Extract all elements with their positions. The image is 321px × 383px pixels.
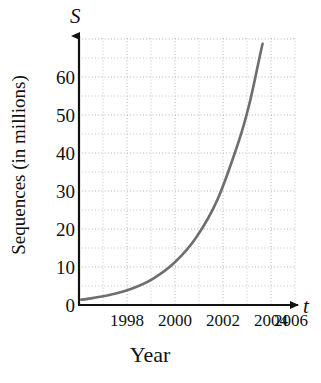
chart-figure: Sequences (in millions) 60 50 40 30 20 1… <box>0 0 321 383</box>
grid-horizontal-major <box>79 39 295 267</box>
grid-vertical-minor <box>103 38 295 305</box>
plot-area <box>0 0 321 383</box>
grid-horizontal-minor <box>79 58 295 286</box>
